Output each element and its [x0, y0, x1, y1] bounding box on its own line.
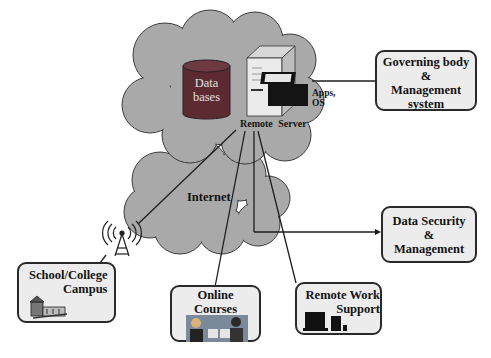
node-label-line: Governing body	[377, 55, 475, 69]
apps-label: Apps,	[312, 88, 336, 98]
node-label-line: Management	[377, 83, 475, 97]
node-label-line: &	[383, 228, 475, 242]
database-label: Data bases	[183, 76, 230, 104]
node-label-line: Management	[383, 242, 475, 256]
node-label-line: School/College	[29, 268, 114, 282]
remote-work-node: Remote Work Support	[295, 282, 382, 335]
remote-server-label: Remote Server	[240, 118, 307, 129]
school-campus-node: School/College Campus	[17, 262, 116, 323]
node-label-line: system	[377, 97, 475, 111]
online-courses-node: Online Courses	[170, 285, 261, 342]
governing-body-node: Governing body & Management system	[375, 50, 477, 111]
os-label: OS	[312, 98, 336, 108]
database-label-line: Data	[183, 76, 230, 90]
data-security-node: Data Security & Management	[381, 206, 477, 263]
apps-os-label: Apps, OS	[312, 88, 336, 108]
database-label-line: bases	[183, 90, 230, 104]
students-laptop-icon	[186, 315, 248, 342]
cloud-architecture-diagram: Data bases Remote Server Apps, OS Intern…	[0, 0, 491, 358]
devices-icon	[303, 312, 353, 332]
campus-building-icon	[27, 294, 71, 320]
node-label-line: &	[377, 69, 475, 83]
node-label-line: Data Security	[383, 214, 475, 228]
internet-label: Internet	[187, 190, 231, 205]
node-label-line: Remote Work	[297, 288, 380, 302]
node-label-line: Online	[172, 288, 259, 302]
node-label-line: Courses	[172, 302, 259, 316]
